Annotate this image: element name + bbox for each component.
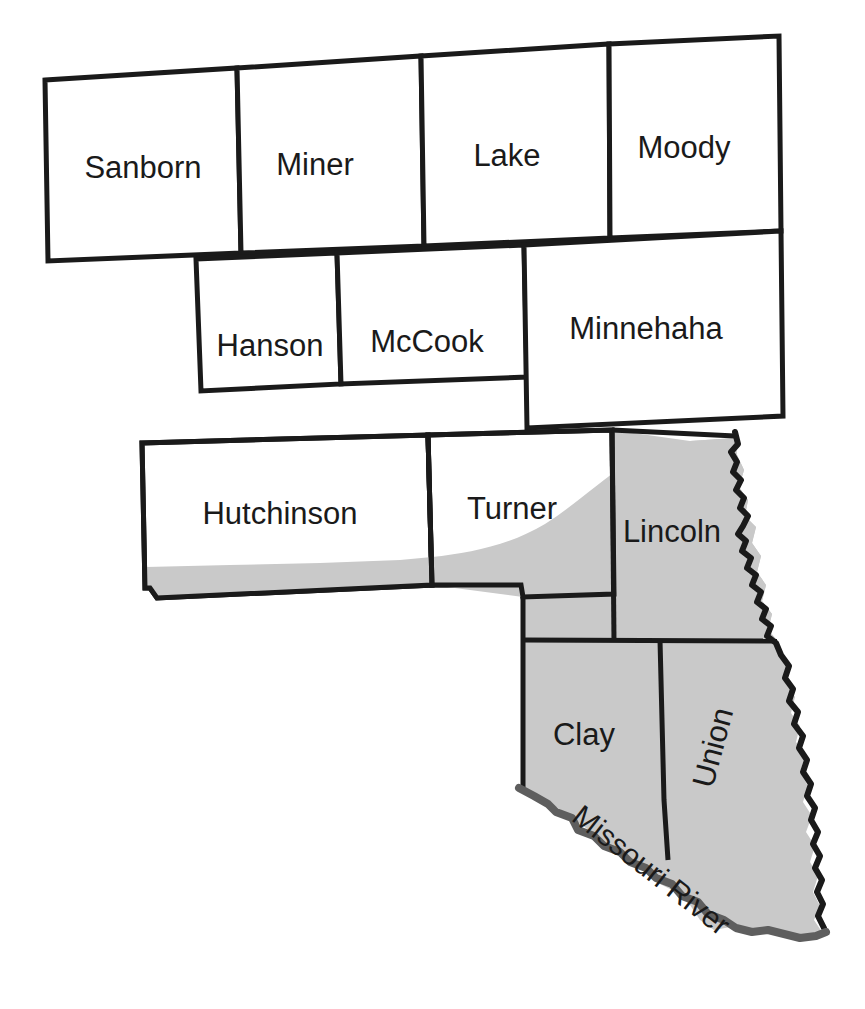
county-label-clay: Clay (553, 717, 616, 752)
county-label-hutchinson: Hutchinson (202, 496, 357, 531)
county-label-minnehaha: Minnehaha (569, 311, 723, 346)
county-shape-hanson[interactable] (196, 253, 341, 391)
border-lincoln-west (612, 430, 614, 640)
county-label-moody: Moody (637, 130, 731, 165)
county-label-sanborn: Sanborn (84, 150, 201, 185)
county-shape-mccook[interactable] (337, 245, 527, 384)
county-label-mccook: McCook (370, 324, 484, 359)
county-label-miner: Miner (276, 147, 354, 182)
county-label-hanson: Hanson (217, 328, 324, 363)
county-label-lake: Lake (473, 138, 540, 173)
border-lincoln-south (523, 640, 777, 641)
county-label-turner: Turner (467, 491, 557, 526)
south-dakota-county-map: Sanborn Miner Lake Moody Hanson McCook M… (0, 0, 865, 1009)
county-label-lincoln: Lincoln (623, 514, 721, 549)
county-map-container: Sanborn Miner Lake Moody Hanson McCook M… (0, 0, 865, 1009)
